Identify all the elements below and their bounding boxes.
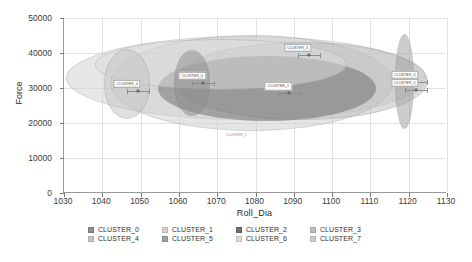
y-axis-tick: [60, 123, 64, 124]
legend-swatch-icon: [162, 227, 168, 233]
legend-swatch-icon: [88, 227, 94, 233]
legend-item[interactable]: CLUSTER_7: [310, 235, 384, 242]
y-axis-tick-label: 10000: [0, 153, 52, 163]
gridline-vertical: [447, 18, 448, 192]
legend-item[interactable]: CLUSTER_1: [162, 226, 236, 233]
y-axis-tick: [60, 158, 64, 159]
y-axis-tick-label: 50000: [0, 13, 52, 23]
cluster-callout-label: CLUSTER_5: [391, 79, 418, 87]
legend-row: CLUSTER_4CLUSTER_5CLUSTER_6CLUSTER_7: [88, 235, 384, 242]
legend-item[interactable]: CLUSTER_3: [310, 226, 384, 233]
x-axis-tick-label: 1110: [361, 196, 379, 206]
callout-leader-tick: [427, 80, 428, 85]
legend-row: CLUSTER_0CLUSTER_1CLUSTER_2CLUSTER_3: [88, 226, 384, 233]
legend-item[interactable]: CLUSTER_4: [88, 235, 162, 242]
legend-swatch-icon: [236, 236, 242, 242]
legend-item-label: CLUSTER_7: [320, 235, 361, 242]
x-axis-tick-label: 1080: [245, 196, 264, 206]
y-axis-tick: [60, 18, 64, 19]
cluster-callout-label: CLUSTER_1: [226, 133, 247, 137]
x-axis-tick-label: 1040: [92, 196, 111, 206]
cluster-callout-label: CLUSTER_0: [179, 72, 206, 80]
callout-leader-tick: [149, 89, 150, 94]
legend-item-label: CLUSTER_1: [172, 226, 213, 233]
callout-leader-tick: [214, 81, 215, 86]
legend-swatch-icon: [310, 236, 316, 242]
cluster-callout-label: CLUSTER_3: [284, 44, 311, 52]
callout-leader-tick: [320, 53, 321, 58]
callout-leader-tick: [127, 89, 128, 94]
legend-item-label: CLUSTER_5: [172, 235, 213, 242]
cluster-callout-label: CLUSTER_4: [114, 80, 141, 88]
y-axis-tick-label: 0: [0, 188, 52, 198]
x-axis-tick-label: 1130: [437, 196, 455, 206]
x-axis-tick-label: 1060: [168, 196, 187, 206]
legend-item[interactable]: CLUSTER_5: [162, 235, 236, 242]
callout-leader-tick: [298, 53, 299, 58]
legend-swatch-icon: [88, 236, 94, 242]
x-axis-tick-label: 1070: [207, 196, 226, 206]
y-axis-tick-label: 20000: [0, 118, 52, 128]
legend-item-label: CLUSTER_0: [98, 226, 139, 233]
legend-item-label: CLUSTER_6: [246, 235, 287, 242]
y-axis-title: Force: [14, 48, 24, 138]
x-axis-title: Roll_Dia: [63, 208, 446, 218]
callout-leader-tick: [278, 91, 279, 96]
chart-root: CLUSTER_4CLUSTER_0CLUSTER_3CLUSTER_2CLUS…: [0, 0, 472, 262]
legend: CLUSTER_0CLUSTER_1CLUSTER_2CLUSTER_3CLUS…: [0, 226, 472, 242]
legend-item-label: CLUSTER_3: [320, 226, 361, 233]
callout-leader-tick: [300, 91, 301, 96]
callout-leader-tick: [427, 88, 428, 93]
cluster-callout-label: CLUSTER_2: [265, 82, 292, 90]
y-axis-tick-label: 40000: [0, 48, 52, 58]
ellipse-layer: [64, 18, 446, 192]
callout-leader-tick: [405, 88, 406, 93]
legend-item-label: CLUSTER_4: [98, 235, 139, 242]
legend-swatch-icon: [310, 227, 316, 233]
legend-item[interactable]: CLUSTER_2: [236, 226, 310, 233]
legend-item[interactable]: CLUSTER_0: [88, 226, 162, 233]
x-axis-tick-label: 1050: [130, 196, 149, 206]
legend-swatch-icon: [162, 236, 168, 242]
plot-area: CLUSTER_4CLUSTER_0CLUSTER_3CLUSTER_2CLUS…: [63, 18, 446, 193]
x-axis-tick-label: 1120: [399, 196, 417, 206]
y-axis-tick: [60, 88, 64, 89]
callout-leader-tick: [192, 81, 193, 86]
legend-swatch-icon: [236, 227, 242, 233]
legend-item[interactable]: CLUSTER_6: [236, 235, 310, 242]
x-axis-tick-label: 1100: [322, 196, 340, 206]
y-axis-tick-label: 30000: [0, 83, 52, 93]
x-axis-tick-label: 1030: [54, 196, 73, 206]
y-axis-tick: [60, 53, 64, 54]
x-axis-tick-label: 1090: [283, 196, 302, 206]
legend-item-label: CLUSTER_2: [246, 226, 287, 233]
y-axis-tick: [60, 193, 64, 194]
